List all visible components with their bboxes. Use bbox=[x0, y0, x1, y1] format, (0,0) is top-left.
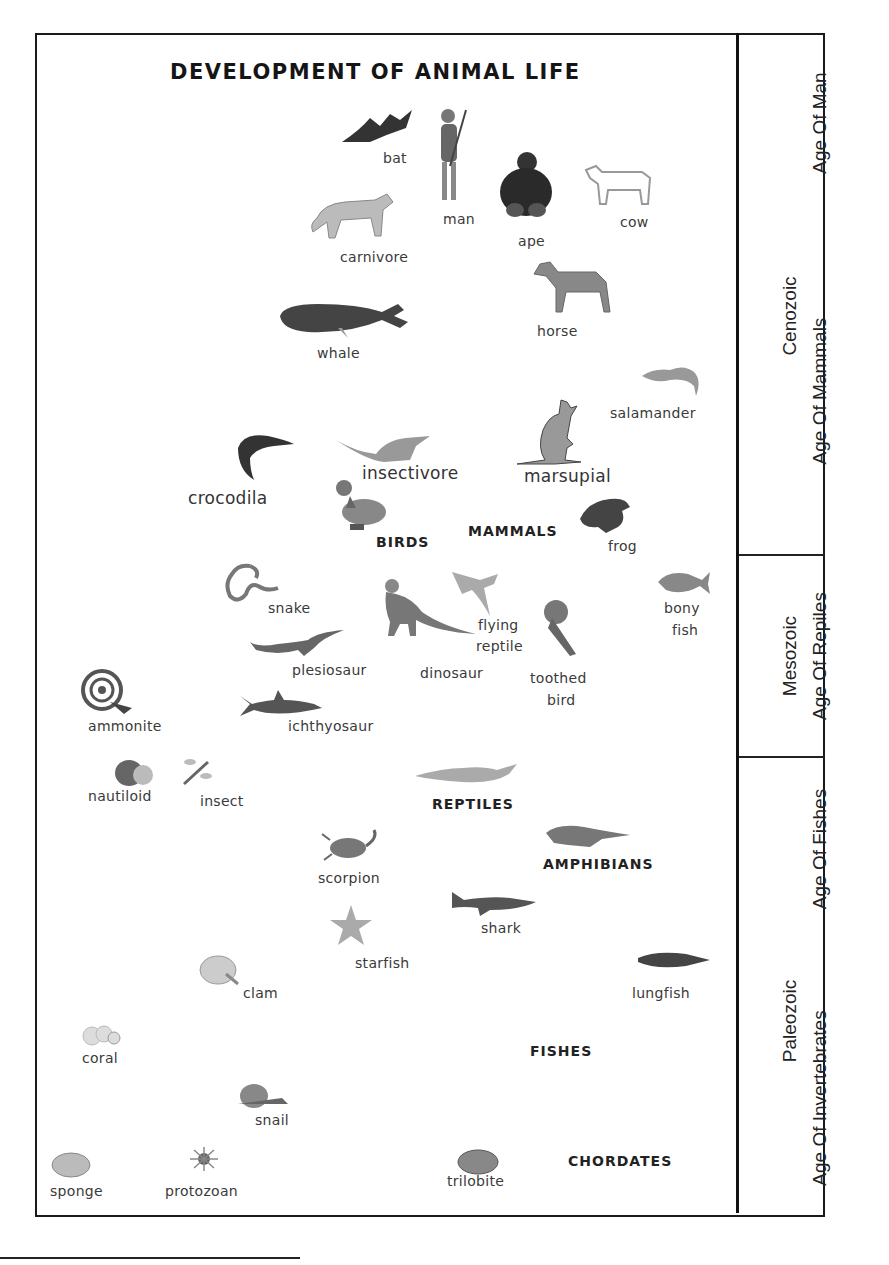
carnivore-icon bbox=[305, 188, 395, 242]
label-bony-fish-line2: fish bbox=[672, 622, 698, 638]
group-mammals: MAMMALS bbox=[468, 523, 557, 539]
label-shark: shark bbox=[481, 920, 521, 936]
label-bony-fish-line1: bony bbox=[664, 600, 700, 616]
cow-icon bbox=[582, 160, 654, 208]
label-sponge: sponge bbox=[50, 1183, 103, 1199]
age-of-reptiles: Age Of Repiles bbox=[809, 561, 831, 751]
label-trilobite: trilobite bbox=[447, 1173, 504, 1189]
label-ichthyosaur: ichthyosaur bbox=[288, 718, 373, 734]
label-protozoan: protozoan bbox=[165, 1183, 238, 1199]
insect-icon bbox=[180, 754, 214, 788]
label-scorpion: scorpion bbox=[318, 870, 380, 886]
toothed-bird-icon bbox=[540, 598, 582, 660]
lungfish-icon bbox=[636, 950, 712, 972]
label-lungfish: lungfish bbox=[632, 985, 690, 1001]
bony-fish-icon bbox=[656, 568, 712, 598]
salamander-icon bbox=[640, 362, 702, 400]
label-marsupial: marsupial bbox=[524, 466, 611, 486]
protozoan-icon bbox=[186, 1146, 222, 1172]
age-of-invertebrates: Age Of Invertebrates bbox=[809, 993, 831, 1203]
label-clam: clam bbox=[243, 985, 278, 1001]
horse-icon bbox=[530, 258, 612, 314]
snail-icon bbox=[234, 1082, 290, 1110]
group-amphibians: AMPHIBIANS bbox=[543, 856, 653, 872]
label-coral: coral bbox=[82, 1050, 118, 1066]
label-flying-reptile-line1: flying bbox=[478, 617, 519, 633]
label-horse: horse bbox=[537, 323, 578, 339]
label-cow: cow bbox=[620, 214, 649, 230]
reptiles-icon bbox=[413, 762, 517, 786]
label-bat: bat bbox=[383, 150, 407, 166]
label-salamander: salamander bbox=[610, 405, 696, 421]
scorpion-icon bbox=[320, 828, 382, 864]
label-insect: insect bbox=[200, 793, 244, 809]
label-snail: snail bbox=[255, 1112, 289, 1128]
frog-icon bbox=[578, 495, 632, 535]
whale-icon bbox=[278, 300, 410, 340]
plesiosaur-icon bbox=[248, 628, 344, 662]
label-whale: whale bbox=[317, 345, 360, 361]
label-toothed-bird-line2: bird bbox=[547, 692, 575, 708]
nautiloid-icon bbox=[113, 758, 155, 788]
amphibians-icon bbox=[544, 823, 630, 849]
era-column-divider bbox=[736, 33, 739, 1213]
era-cenozoic: Cenozoic bbox=[779, 246, 801, 386]
era-mesozoic: Mesozoic bbox=[779, 586, 801, 726]
age-of-fishes: Age Of Fishes bbox=[809, 759, 831, 939]
page-title: DEVELOPMENT OF ANIMAL LIFE bbox=[170, 60, 581, 84]
label-frog: frog bbox=[608, 538, 637, 554]
clam-icon bbox=[198, 954, 242, 988]
label-ammonite: ammonite bbox=[88, 718, 162, 734]
bat-icon bbox=[340, 108, 415, 148]
insectivore-icon bbox=[336, 432, 432, 466]
dinosaur-icon bbox=[378, 578, 478, 642]
cenozoic-mesozoic-divider bbox=[739, 554, 825, 556]
crocodila-icon bbox=[228, 430, 296, 482]
group-chordates: CHORDATES bbox=[568, 1153, 672, 1169]
label-crocodila: crocodila bbox=[188, 488, 267, 508]
label-nautiloid: nautiloid bbox=[88, 788, 152, 804]
label-ape: ape bbox=[518, 233, 545, 249]
ichthyosaur-icon bbox=[238, 688, 324, 722]
group-reptiles: REPTILES bbox=[432, 796, 514, 812]
footnote-rule bbox=[0, 1257, 300, 1259]
era-paleozoic: Paleozoic bbox=[779, 951, 801, 1091]
age-of-mammals: Age Of Mammals bbox=[809, 291, 831, 491]
ammonite-icon bbox=[80, 668, 134, 714]
marsupial-icon bbox=[515, 398, 595, 468]
shark-icon bbox=[450, 888, 542, 918]
label-snake: snake bbox=[268, 600, 310, 616]
label-starfish: starfish bbox=[355, 955, 410, 971]
label-man: man bbox=[443, 211, 475, 227]
label-flying-reptile-line2: reptile bbox=[476, 638, 523, 654]
man-icon bbox=[432, 106, 472, 206]
label-plesiosaur: plesiosaur bbox=[292, 662, 367, 678]
sponge-icon bbox=[50, 1150, 92, 1180]
label-dinosaur: dinosaur bbox=[420, 665, 483, 681]
label-carnivore: carnivore bbox=[340, 249, 408, 265]
age-of-man: Age Of Man bbox=[809, 43, 831, 203]
group-birds: BIRDS bbox=[376, 534, 429, 550]
label-insectivore: insectivore bbox=[362, 463, 458, 483]
birds-icon bbox=[330, 478, 390, 536]
mesozoic-paleozoic-divider bbox=[739, 756, 825, 758]
starfish-icon bbox=[328, 903, 374, 949]
coral-icon bbox=[80, 1022, 122, 1050]
ape-icon bbox=[495, 150, 557, 222]
group-fishes: FISHES bbox=[530, 1043, 592, 1059]
label-toothed-bird-line1: toothed bbox=[530, 670, 587, 686]
